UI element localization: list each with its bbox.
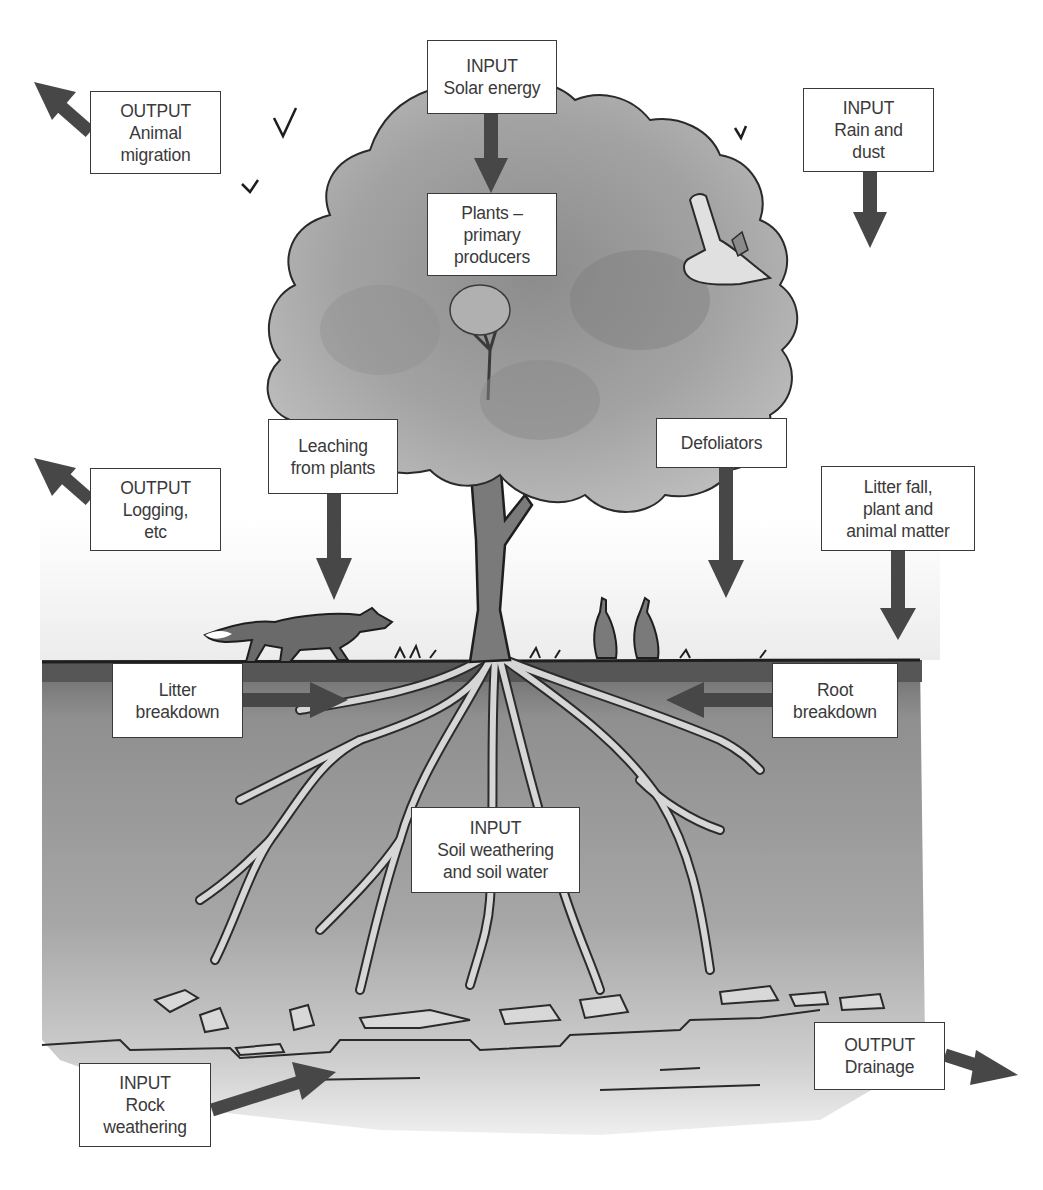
label-line: INPUT (470, 817, 522, 839)
arrow-solar (484, 113, 498, 163)
label-line: Defoliators (681, 432, 762, 454)
label-line: Leaching (298, 435, 367, 457)
label-line: dust (852, 141, 884, 163)
label-line: OUTPUT (844, 1034, 915, 1056)
label-line: breakdown (136, 701, 220, 723)
label-line: from plants (291, 457, 375, 479)
label-input-rain-dust: INPUT Rain and dust (803, 88, 934, 172)
label-line: Litter (159, 679, 197, 701)
label-line: INPUT (119, 1072, 171, 1094)
label-line: Litter fall, (864, 476, 933, 498)
label-line: etc (144, 521, 167, 543)
arrow-litter-fall (891, 551, 905, 611)
label-line: primary (464, 224, 521, 246)
arrow-root-breakdown (700, 693, 775, 707)
label-input-soil-weathering: INPUT Soil weathering and soil water (411, 807, 580, 893)
label-line: weathering (103, 1116, 187, 1138)
label-line: OUTPUT (120, 100, 191, 122)
label-line: producers (454, 246, 530, 268)
arrow-leaching (327, 494, 341, 564)
label-line: Root (817, 679, 853, 701)
label-output-drainage: OUTPUT Drainage (814, 1022, 945, 1090)
label-root-breakdown: Root breakdown (772, 663, 898, 738)
label-line: Soil weathering (437, 839, 554, 861)
illustration-layer (0, 0, 1043, 1190)
arrow-defoliators (719, 468, 733, 563)
label-line: Rain and (834, 119, 902, 141)
label-line: OUTPUT (120, 477, 191, 499)
label-output-animal-migration: OUTPUT Animal migration (90, 91, 221, 174)
label-line: Plants – (461, 202, 523, 224)
label-leaching-from-plants: Leaching from plants (268, 419, 398, 494)
label-input-rock-weathering: INPUT Rock weathering (79, 1063, 211, 1147)
label-line: Rock (125, 1094, 164, 1116)
label-line: INPUT (466, 55, 518, 77)
label-plants-primary-producers: Plants – primary producers (427, 193, 557, 276)
label-line: breakdown (793, 701, 877, 723)
label-line: Logging, (123, 499, 189, 521)
label-line: INPUT (843, 97, 895, 119)
label-litter-breakdown: Litter breakdown (112, 663, 243, 738)
label-line: Solar energy (444, 77, 541, 99)
label-defoliators: Defoliators (656, 418, 787, 468)
label-line: and soil water (443, 861, 548, 883)
label-line: animal matter (846, 520, 949, 542)
label-line: migration (120, 144, 190, 166)
ecosystem-diagram: OUTPUT Animal migration INPUT Solar ener… (0, 0, 1043, 1190)
label-input-solar-energy: INPUT Solar energy (427, 40, 557, 114)
label-line: Animal (129, 122, 181, 144)
label-line: Drainage (845, 1056, 914, 1078)
arrow-rain (863, 172, 877, 217)
label-line: plant and (863, 498, 933, 520)
label-output-logging: OUTPUT Logging, etc (90, 468, 221, 551)
label-litter-fall: Litter fall, plant and animal matter (821, 466, 975, 551)
arrow-litter-breakdown (243, 693, 313, 707)
